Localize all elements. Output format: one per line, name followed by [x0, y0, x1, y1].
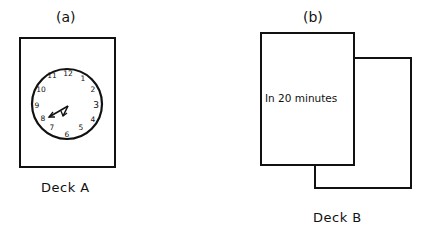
numeral-6: 6	[65, 130, 70, 139]
numeral-10: 10	[36, 85, 46, 94]
deck-b-caption: Deck B	[313, 210, 362, 225]
numeral-12: 12	[63, 69, 73, 78]
deck-a-caption: Deck A	[41, 180, 90, 195]
numeral-9: 9	[35, 101, 40, 110]
panel-b-tag: (b)	[303, 9, 323, 25]
numeral-7: 7	[50, 123, 55, 132]
numeral-2: 2	[91, 85, 96, 94]
numeral-5: 5	[79, 123, 84, 132]
numeral-1: 1	[81, 74, 86, 83]
numeral-4: 4	[91, 115, 96, 124]
numeral-8: 8	[41, 114, 46, 123]
numeral-11: 11	[47, 71, 57, 80]
numeral-3: 3	[93, 100, 99, 110]
front-card-text: In 20 minutes	[265, 92, 337, 104]
deck-b-front-card: In 20 minutes	[260, 32, 355, 166]
